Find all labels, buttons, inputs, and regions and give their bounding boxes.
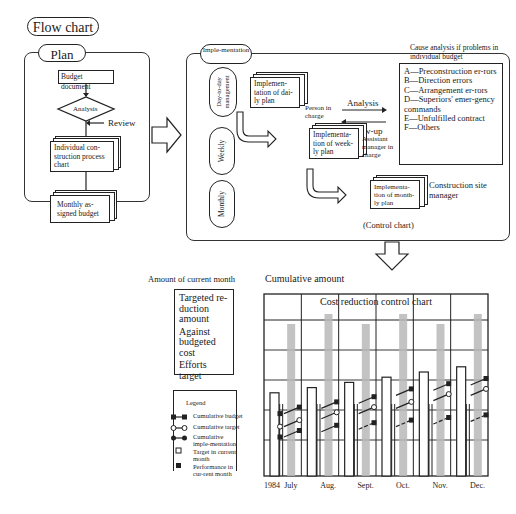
performance-point xyxy=(297,428,302,433)
legend-item: Cumulative budget xyxy=(193,412,243,419)
cumulative-target-point xyxy=(278,424,283,429)
legend-symbols xyxy=(170,414,190,494)
monthly-plan-text: Implementa-tion of month-ly plan xyxy=(374,183,414,207)
current-month-label: Amount of current month xyxy=(148,274,235,284)
x-tick-label: July xyxy=(284,481,297,490)
legend-item: Performance in cur-rent month xyxy=(193,463,239,477)
cause-analysis-box: A—Preconstruction er-rors B—Direction er… xyxy=(399,63,503,165)
weekly-plan-stack: Implementa-tion of week-ly plan xyxy=(309,126,365,160)
x-tick-label: Aug. xyxy=(320,481,336,490)
legend-symbol-open-square xyxy=(176,448,181,453)
hollow-right-arrow xyxy=(152,118,181,152)
daily-plan-text: Implemen-tation of dai-ly plan xyxy=(254,79,293,105)
individual-chart-text: Individual con-struction process chart xyxy=(54,143,105,169)
performance-point xyxy=(446,415,451,420)
cumulative-budget-point xyxy=(297,405,302,410)
site-manager: Construction site manager xyxy=(429,180,495,200)
implementation-label: Imple-mentation xyxy=(200,44,252,64)
cumulative-target-point xyxy=(297,418,302,423)
legend-item: Cumulative imple-mentation xyxy=(193,433,239,447)
performance-point xyxy=(334,423,339,428)
cumulative-budget-point xyxy=(334,399,339,404)
implementation-label-text: Imple-mentation xyxy=(201,45,251,54)
target-bar xyxy=(457,367,466,476)
current-month-item: Against budgeted cost xyxy=(179,327,229,359)
shaded-period-column xyxy=(287,324,295,476)
analysis-label: Analysis xyxy=(347,98,379,108)
period-monthly-text: Monthly xyxy=(218,191,226,217)
period-day-to-day-text: Day-to-day management xyxy=(215,70,231,114)
legend-symbol-open-circle-line xyxy=(171,426,176,431)
performance-point xyxy=(409,418,414,423)
x-tick-label: Oct. xyxy=(396,481,410,490)
legend-item: Target in current month xyxy=(193,448,239,462)
legend-title: Legend xyxy=(186,398,206,408)
cumulative-target-point xyxy=(484,386,489,391)
current-month-item: Efforts target xyxy=(179,360,229,381)
person-in-charge: Person in charge xyxy=(305,104,341,120)
cumulative-budget-point xyxy=(372,394,377,399)
legend-item: Cumulative target xyxy=(193,423,243,430)
target-bar xyxy=(419,372,428,476)
current-month-box: Targeted re-duction amount Against budge… xyxy=(174,289,234,375)
target-bar xyxy=(270,393,279,476)
target-bar xyxy=(345,382,354,476)
cost-reduction-chart: 1984JulyAug.Sept.Oct.Nov.Dec. xyxy=(262,292,492,502)
monthly-budget-stack: Monthly as-signed budget xyxy=(50,193,116,223)
cause-item: D—Superiors' emer-gency commands xyxy=(404,95,498,114)
shaded-period-column xyxy=(324,314,332,476)
cumulative-target-point xyxy=(446,392,451,397)
hollow-down-arrow xyxy=(376,242,408,270)
target-bar xyxy=(382,377,391,476)
period-day-to-day: Day-to-day management xyxy=(209,67,237,117)
monthly-plan-stack: Implementa-tion of month-ly plan xyxy=(370,178,426,212)
assistant-manager: Assistant manager in charge xyxy=(362,135,396,159)
period-monthly: Monthly xyxy=(209,180,235,228)
cumulative-target-point xyxy=(372,405,377,410)
control-chart-label: (Control chart) xyxy=(363,220,414,230)
x-tick-label: Sept. xyxy=(357,481,373,490)
cumulative-budget-point xyxy=(484,376,489,381)
performance-point xyxy=(372,420,377,425)
current-month-item: Targeted re-duction amount xyxy=(179,293,229,325)
x-tick-label: 1984 xyxy=(264,481,280,490)
cumulative-budget-point xyxy=(278,411,283,416)
cumulative-budget-point xyxy=(446,381,451,386)
shaded-period-column xyxy=(474,314,482,476)
cumulative-target-point xyxy=(409,399,414,404)
period-weekly-text: Weekly xyxy=(218,140,226,163)
legend-symbol-filled-circle-line xyxy=(171,436,176,441)
x-tick-label: Dec. xyxy=(470,481,485,490)
cumulative-label: Cumulative amount xyxy=(265,274,344,284)
analysis-diamond-label: Analysis xyxy=(73,104,98,114)
review-label: Review xyxy=(108,118,136,128)
individual-chart-stack: Individual con-struction process chart xyxy=(50,139,120,173)
shaded-period-column xyxy=(436,324,444,476)
target-bar xyxy=(307,388,316,476)
cumulative-budget-point xyxy=(409,386,414,391)
weekly-plan-text: Implementa-tion of week-ly plan xyxy=(313,130,353,156)
performance-point xyxy=(278,435,283,440)
legend-symbol-filled-square-line xyxy=(171,415,176,420)
cumulative-target-point xyxy=(334,410,339,415)
cause-item: F—Others xyxy=(404,123,498,132)
period-weekly: Weekly xyxy=(209,127,235,175)
legend-symbol-filled-square xyxy=(176,463,181,468)
cause-analysis-title: Cause analysis if problems in individual… xyxy=(410,44,506,61)
performance-point xyxy=(484,412,489,417)
x-tick-label: Nov. xyxy=(433,481,448,490)
monthly-budget-text: Monthly as-signed budget xyxy=(57,200,99,218)
shaded-period-column xyxy=(399,314,407,476)
daily-plan-stack: Implemen-tation of dai-ly plan xyxy=(250,75,306,109)
